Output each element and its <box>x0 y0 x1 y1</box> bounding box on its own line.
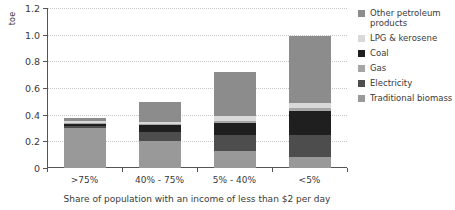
chart-legend: Other petroleum productsLPG & keroseneCo… <box>358 8 455 108</box>
legend-item-label: Other petroleum products <box>370 8 455 28</box>
legend-item-5[interactable]: Electricity <box>358 78 455 88</box>
legend-swatch-icon <box>358 80 365 87</box>
legend-item-label: Coal <box>370 48 389 58</box>
chart-figure: toe 00.20.40.60.81.01.2 >75%40% - 75%5% … <box>0 0 455 210</box>
legend-swatch-icon <box>358 50 365 57</box>
legend-item-3[interactable]: Coal <box>358 48 455 58</box>
y-tick-mark <box>43 61 47 62</box>
legend-swatch-icon <box>358 65 365 72</box>
legend-item-label: Traditional biomass <box>370 93 452 103</box>
plot-area: 00.20.40.60.81.01.2 >75%40% - 75%5% - 40… <box>47 8 347 168</box>
legend-swatch-icon <box>358 95 365 102</box>
bar-2[interactable] <box>139 8 181 168</box>
y-tick-label: 1.0 <box>25 29 40 40</box>
plot-inner: 00.20.40.60.81.01.2 >75%40% - 75%5% - 40… <box>47 8 347 168</box>
bar-segment[interactable] <box>214 116 256 121</box>
chart-title-remnant <box>150 0 290 3</box>
x-tick-label: 5% - 40% <box>213 175 256 185</box>
x-tick-label: 40% - 75% <box>135 175 184 185</box>
bar-segment[interactable] <box>289 111 331 134</box>
bar-segment[interactable] <box>64 118 106 121</box>
x-tick-mark <box>272 168 273 172</box>
bar-segment[interactable] <box>214 72 256 116</box>
x-tick-mark <box>197 168 198 172</box>
y-tick-mark <box>43 35 47 36</box>
legend-item-label: LPG & kerosene <box>370 33 437 43</box>
legend-item-label: Gas <box>370 63 386 73</box>
legend-item-label: Electricity <box>370 78 412 88</box>
y-tick-label: 0.6 <box>25 83 40 94</box>
bar-segment[interactable] <box>214 151 256 168</box>
x-tick-label: <5% <box>299 175 321 185</box>
bar-segment[interactable] <box>64 123 106 126</box>
legend-swatch-icon <box>358 35 365 42</box>
x-tick-mark <box>347 168 348 172</box>
x-tick-label: >75% <box>71 175 99 185</box>
bar-segment[interactable] <box>289 36 331 103</box>
legend-item-2[interactable]: LPG & kerosene <box>358 33 455 43</box>
bar-segment[interactable] <box>214 123 256 134</box>
bar-segment[interactable] <box>289 103 331 108</box>
bar-1[interactable] <box>64 8 106 168</box>
bar-segment[interactable] <box>64 126 106 128</box>
bar-segment[interactable] <box>214 135 256 151</box>
bar-segment[interactable] <box>64 128 106 168</box>
bar-4[interactable] <box>289 8 331 168</box>
legend-item-4[interactable]: Gas <box>358 63 455 73</box>
bar-segment[interactable] <box>139 122 181 124</box>
bar-segment[interactable] <box>289 135 331 157</box>
y-tick-mark <box>43 88 47 89</box>
bar-segment[interactable] <box>139 141 181 168</box>
y-axis-title: toe <box>8 0 17 39</box>
legend-item-6[interactable]: Traditional biomass <box>358 93 455 103</box>
y-tick-mark <box>43 8 47 9</box>
y-tick-label: 1.2 <box>25 3 40 14</box>
y-tick-label: 0.8 <box>25 56 40 67</box>
y-tick-mark <box>43 115 47 116</box>
bar-segment[interactable] <box>289 157 331 168</box>
y-tick-label: 0.2 <box>25 136 40 147</box>
x-tick-mark <box>122 168 123 172</box>
x-axis-title: Share of population with an income of le… <box>47 194 347 204</box>
bar-segment[interactable] <box>64 121 106 122</box>
y-tick-label: 0 <box>34 163 40 174</box>
bar-segment[interactable] <box>139 102 181 122</box>
y-tick-mark <box>43 141 47 142</box>
x-tick-mark <box>47 168 48 172</box>
legend-item-1[interactable]: Other petroleum products <box>358 8 455 28</box>
bar-segment[interactable] <box>214 121 256 123</box>
y-axis-line <box>47 8 48 168</box>
bar-segment[interactable] <box>139 132 181 141</box>
bar-segment[interactable] <box>139 125 181 132</box>
bar-3[interactable] <box>214 8 256 168</box>
y-tick-label: 0.4 <box>25 109 40 120</box>
bar-segment[interactable] <box>289 108 331 111</box>
legend-swatch-icon <box>358 10 365 17</box>
